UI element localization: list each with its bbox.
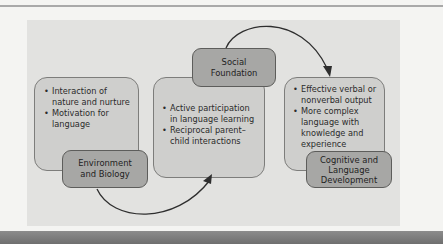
- curved-arrow-icon: [97, 174, 212, 214]
- flow-arrows: [0, 0, 443, 244]
- curved-arrow-icon: [226, 26, 332, 77]
- bottom-band: [0, 231, 443, 244]
